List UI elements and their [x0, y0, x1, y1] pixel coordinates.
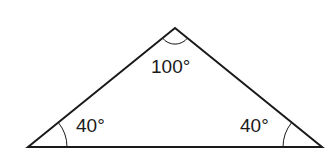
apex-angle-label: 100°: [151, 57, 190, 76]
right-angle-arc: [283, 123, 292, 148]
right-angle-label: 40°: [240, 116, 269, 135]
left-angle-arc: [58, 123, 67, 148]
triangle-shape: [28, 28, 322, 147]
triangle-diagram: 100° 40° 40°: [0, 0, 335, 153]
left-angle-label: 40°: [76, 116, 105, 135]
apex-angle-arc: [163, 38, 188, 44]
